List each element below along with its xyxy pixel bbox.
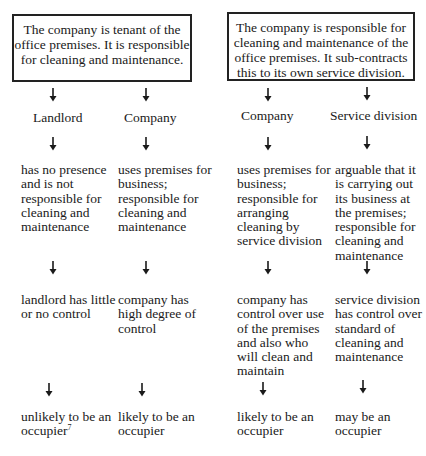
down-arrow-icon	[48, 137, 58, 151]
footnote-ref: 7	[67, 423, 71, 432]
scenario-a-box: The company is tenant of the office prem…	[12, 14, 192, 82]
down-arrow-icon	[362, 136, 372, 150]
down-arrow-icon	[141, 261, 151, 275]
down-arrow-icon	[48, 261, 58, 275]
company-a-control: company has high degree of control	[118, 293, 214, 336]
down-arrow-icon	[362, 261, 372, 275]
service-division-presence: arguable that it is carrying out its bus…	[335, 163, 425, 263]
party-service-division: Service division	[330, 108, 417, 123]
scenario-b-box: The company is responsible for cleaning …	[227, 12, 415, 81]
landlord-presence: has no presence and is not responsible f…	[21, 163, 117, 234]
service-division-conclusion: may be an occupier	[335, 410, 415, 439]
landlord-conclusion: unlikely to be an occupier7	[21, 410, 117, 439]
party-landlord: Landlord	[33, 110, 83, 125]
company-a-presence: uses premises for business; responsible …	[118, 163, 214, 234]
down-arrow-icon	[258, 382, 268, 396]
company-b-conclusion: likely to be an occupier	[237, 410, 333, 439]
party-company-a: Company	[124, 110, 177, 125]
party-company-b: Company	[241, 108, 294, 123]
down-arrow-icon	[141, 137, 151, 151]
down-arrow-icon	[263, 137, 273, 151]
down-arrow-icon	[362, 87, 372, 101]
service-division-control: service division has control over standa…	[335, 293, 425, 364]
down-arrow-icon	[44, 383, 54, 397]
scenario-a-text: The company is tenant of the office prem…	[15, 22, 190, 67]
down-arrow-icon	[141, 88, 151, 102]
company-b-presence: uses premises for business; responsible …	[237, 163, 333, 249]
down-arrow-icon	[48, 88, 58, 102]
down-arrow-icon	[358, 380, 368, 394]
scenario-b-text: The company is responsible for cleaning …	[234, 20, 409, 80]
down-arrow-icon	[263, 88, 273, 102]
company-b-control: company has control over use of the prem…	[237, 293, 331, 379]
landlord-control: landlord has little or no control	[21, 293, 117, 322]
company-a-conclusion: likely to be an occupier	[118, 410, 214, 439]
down-arrow-icon	[137, 383, 147, 397]
down-arrow-icon	[263, 261, 273, 275]
